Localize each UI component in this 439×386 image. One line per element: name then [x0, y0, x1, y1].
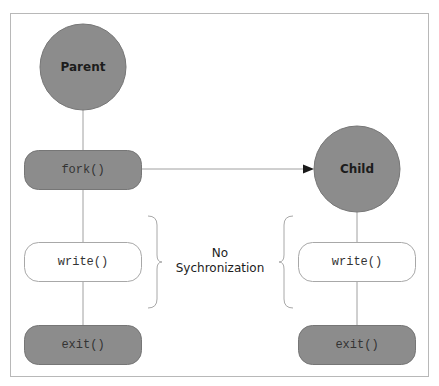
diagram-canvas [0, 0, 439, 386]
child-write-label: write() [298, 254, 416, 270]
annotation-line-2: Sychronization [160, 261, 280, 276]
parent-exit-label: exit() [24, 337, 142, 353]
child-label: Child [314, 161, 400, 177]
child-exit-label: exit() [298, 337, 416, 353]
parent-write-label: write() [24, 254, 142, 270]
parent-label: Parent [40, 59, 126, 75]
parent-fork-label: fork() [24, 162, 142, 178]
no-sync-annotation: No Sychronization [160, 246, 280, 276]
annotation-line-1: No [160, 246, 280, 261]
